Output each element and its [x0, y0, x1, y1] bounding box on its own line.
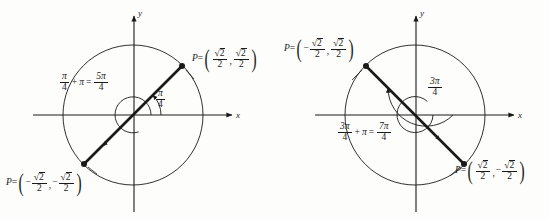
coordinate-comma: , — [228, 57, 232, 67]
denominator: 2 — [331, 50, 346, 60]
left-y-axis-label: y — [138, 8, 142, 18]
right-y-axis-label: y — [420, 8, 424, 18]
right-small-angle-label: 3π4 — [427, 77, 443, 98]
denominator: 2 — [234, 60, 249, 70]
equals-sign: = — [12, 177, 17, 187]
coordinate-comma: , — [491, 169, 495, 179]
y-coordinate: −√22 — [496, 160, 518, 182]
left-angle-equation: π4+π=5π4 — [59, 72, 109, 93]
y-coordinate: √22 — [330, 38, 347, 60]
result-denominator: 4 — [94, 83, 108, 93]
term1-denominator: 4 — [338, 133, 352, 143]
close-paren: ) — [349, 39, 354, 60]
right-x-axis-label: x — [518, 110, 522, 120]
radicand: 2 — [509, 160, 515, 171]
left-point-label-upper-right: P=(√22,√22) — [192, 48, 258, 70]
radicand: 2 — [338, 38, 344, 49]
equals-sign: = — [461, 165, 466, 175]
left-point-upper-right — [179, 63, 185, 69]
close-paren: ) — [76, 173, 81, 194]
right-point-upper-left — [363, 63, 369, 69]
radicand: 2 — [483, 160, 489, 171]
term2: π — [362, 127, 367, 137]
y-coordinate: √22 — [233, 48, 250, 70]
x-coordinate: √22 — [212, 48, 229, 70]
x-coordinate: −√22 — [304, 38, 326, 60]
angle-denominator: 4 — [156, 100, 165, 110]
x-sign: − — [26, 177, 31, 187]
radicand: 2 — [241, 48, 247, 59]
right-large-angle-arrow — [430, 130, 440, 140]
equals-sign: = — [290, 43, 295, 53]
angle-denominator: 4 — [428, 88, 442, 98]
left-large-angle-arrow — [103, 136, 113, 146]
radicand: 2 — [220, 48, 226, 59]
left-leader-upper — [186, 70, 194, 79]
denominator: 2 — [502, 172, 517, 182]
right-angle-equation: 3π4+π=7π4 — [337, 122, 392, 143]
denominator: 2 — [59, 184, 74, 194]
denominator: 2 — [213, 60, 228, 70]
y-sign: − — [52, 177, 57, 187]
equals-sign: = — [84, 77, 93, 87]
left-point-lower-left — [81, 161, 87, 167]
x-coordinate: √22 — [475, 160, 492, 182]
close-paren: ) — [520, 161, 525, 182]
coordinate-comma: , — [48, 181, 52, 191]
left-x-axis-label: x — [236, 110, 240, 120]
open-paren: ( — [19, 173, 24, 194]
radicand: 2 — [317, 38, 323, 49]
plus-sign: + — [353, 127, 362, 137]
plus-sign: + — [70, 77, 79, 87]
equals-sign: = — [198, 53, 203, 63]
denominator: 2 — [32, 184, 47, 194]
unit-circle-figure: x y x y P=(√22,√22) P=(−√22,−√22) π4 π4+… — [0, 0, 549, 219]
x-coordinate: −√22 — [26, 172, 48, 194]
right-leader-upper — [352, 70, 362, 80]
denominator: 2 — [310, 50, 325, 60]
right-point-label-lower-right: P=(√22,−√22) — [455, 160, 527, 182]
radicand: 2 — [66, 172, 72, 183]
radicand: 2 — [39, 172, 45, 183]
equals-sign: = — [367, 127, 376, 137]
left-leader-lower — [88, 167, 97, 174]
left-point-label-lower-left: P=(−√22,−√22) — [6, 172, 83, 194]
coordinate-comma: , — [326, 47, 330, 57]
open-paren: ( — [205, 49, 210, 70]
open-paren: ( — [297, 39, 302, 60]
result-denominator: 4 — [377, 133, 391, 143]
denominator: 2 — [476, 172, 491, 182]
open-paren: ( — [468, 161, 473, 182]
y-sign: − — [496, 165, 501, 175]
right-point-label-upper-left: P=(−√22,√22) — [284, 38, 356, 60]
left-small-angle-label: π4 — [155, 89, 166, 110]
term1-denominator: 4 — [60, 83, 69, 93]
close-paren: ) — [251, 49, 256, 70]
x-sign: − — [304, 43, 309, 53]
y-coordinate: −√22 — [52, 172, 74, 194]
